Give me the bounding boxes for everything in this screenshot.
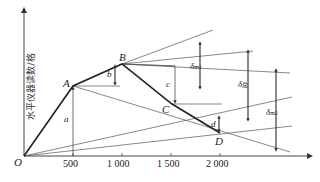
x-tick-2000: 2 000 [206, 159, 229, 169]
point-a-label: A [63, 78, 70, 89]
point-b-label: B [119, 52, 126, 63]
dim-a-label: a [64, 115, 69, 124]
point-d-label: D [215, 136, 223, 147]
x-tick-500: 500 [63, 159, 78, 169]
x-tick-1000: 1 000 [107, 159, 130, 169]
dim-d-label: d [211, 120, 216, 129]
dim-c-label: c [166, 80, 170, 89]
x-tick-1500: 1 500 [157, 159, 180, 169]
delta-total-label: δ总 [238, 80, 248, 89]
point-c-label: C [162, 104, 169, 115]
origin-label: O [14, 157, 22, 168]
delta-m2-label: δm2 [266, 108, 278, 117]
dim-b-label: b [107, 70, 112, 79]
y-axis-label: 水平仪器读数/格 [24, 47, 37, 127]
delta-m1-label: δm1 [190, 62, 202, 71]
measured-curve [24, 64, 220, 156]
diagram-canvas [0, 0, 320, 182]
straightness-error-diagram: 水平仪器读数/格 O 500 1 000 1 500 2 000 A B C D… [0, 0, 320, 182]
